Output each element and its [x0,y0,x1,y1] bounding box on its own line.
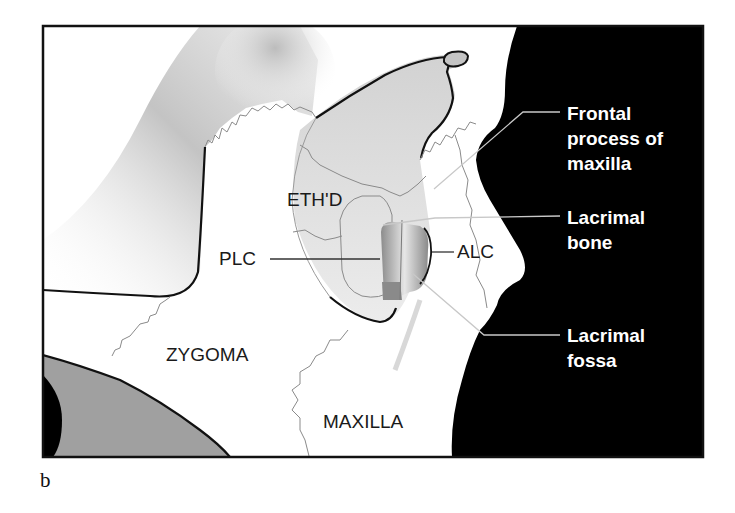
lacrimal-fossa-dark [382,282,402,300]
label-alc: ALC [457,241,494,262]
label-maxilla: MAXILLA [323,411,404,432]
label-zygoma: ZYGOMA [166,344,249,365]
callout-frontal-process-line1: Frontal [567,103,631,124]
callout-lacrimal-fossa-line2: fossa [567,350,617,371]
callout-lacrimal-bone-line1: Lacrimal [567,207,645,228]
label-ethmoid: ETH'D [287,189,342,210]
callout-lacrimal-fossa-line1: Lacrimal [567,325,645,346]
label-plc: PLC [219,248,256,269]
supraorbital-notch [444,52,468,67]
callout-lacrimal-bone-line2: bone [567,232,612,253]
figure-canvas: ETH'D PLC ALC ZYGOMA MAXILLA Frontal pro… [0,0,735,513]
panel-letter: b [40,468,51,492]
callout-frontal-process-line2: process of [567,128,664,149]
anatomy-figure: ETH'D PLC ALC ZYGOMA MAXILLA Frontal pro… [0,0,735,513]
callout-frontal-process-line3: maxilla [567,153,632,174]
